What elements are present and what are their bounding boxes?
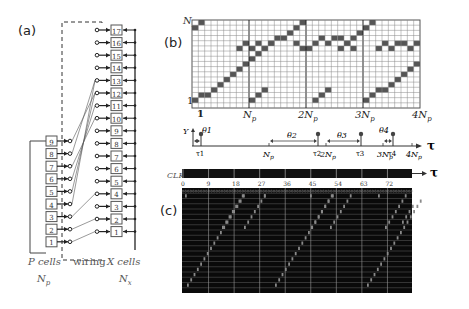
x-input-terminal <box>95 41 99 45</box>
grid-x-label-2np: 2Np <box>298 109 318 123</box>
clk-tick-label: 45 <box>309 180 317 187</box>
arrowhead-icon <box>106 204 110 208</box>
active-cell <box>407 46 413 51</box>
active-cell <box>312 41 318 46</box>
tick-subscript: p <box>332 153 336 161</box>
bus-junction-dot <box>134 180 137 183</box>
p-cell-number: 8 <box>49 151 53 159</box>
bus-junction-dot <box>134 218 137 221</box>
arrowhead-icon <box>197 139 200 143</box>
grid-x-label-1: 1 <box>197 108 204 119</box>
active-cell <box>236 46 242 51</box>
active-cell <box>287 30 293 35</box>
active-cell <box>395 41 401 46</box>
tau-axis-label: τ <box>427 139 435 153</box>
spike-mark <box>402 221 404 224</box>
spike-marker <box>359 132 363 136</box>
tick-subscript: p <box>270 153 274 161</box>
spike-mark <box>367 284 369 287</box>
np-index: p <box>252 115 256 123</box>
clk-tick-label: 54 <box>334 180 342 187</box>
arrowhead-icon <box>123 154 127 158</box>
spike-mark <box>412 205 414 208</box>
axis-arrow-icon <box>416 144 422 149</box>
active-cell <box>350 46 356 51</box>
spike-mark <box>377 268 379 271</box>
spike-mark <box>390 247 392 250</box>
spike-mark <box>318 215 320 218</box>
clk-tick-label: 36 <box>283 180 291 187</box>
bus-junction-dot <box>134 79 137 82</box>
tau-event-label: τ4 <box>388 150 397 158</box>
theta-label: θ4 <box>379 126 389 135</box>
active-cell <box>255 41 261 46</box>
p-cell-number: 1 <box>49 239 53 247</box>
bus-junction-dot <box>134 130 137 133</box>
spike-mark <box>217 236 219 239</box>
arrowhead-icon <box>106 28 110 32</box>
x-cell-number: 1 <box>114 229 118 237</box>
theta-label: θ3 <box>337 131 347 140</box>
spike-mark <box>190 278 192 281</box>
p-count-symbol: N <box>37 273 46 284</box>
active-cell <box>407 67 413 72</box>
arrowhead-icon <box>194 139 197 143</box>
arrowhead-icon <box>106 141 110 145</box>
spike-mark <box>194 273 196 276</box>
active-cell <box>192 98 198 103</box>
spike-mark <box>305 236 307 239</box>
spike-mark <box>207 252 209 255</box>
arrowhead-icon <box>123 192 127 196</box>
arrowhead-icon <box>389 139 392 143</box>
active-cell <box>255 92 261 97</box>
x-input-terminal <box>95 129 99 133</box>
x-cell-number: 5 <box>114 179 118 187</box>
x-input-terminal <box>95 116 99 120</box>
activation-grid <box>190 18 422 110</box>
spike-mark <box>288 263 290 266</box>
arrowhead-icon <box>106 53 110 57</box>
arrowhead-icon <box>64 240 68 244</box>
grid-x-label-np: Np <box>243 109 256 123</box>
x-input-terminal <box>95 79 99 83</box>
panel-c-label: (c) <box>160 203 177 218</box>
spike-mark <box>301 242 303 245</box>
active-cell <box>414 61 420 66</box>
arrowhead-icon <box>64 139 68 143</box>
arrowhead-icon <box>64 214 68 218</box>
active-cell <box>312 98 318 103</box>
active-cell <box>369 20 375 25</box>
arrowhead-icon <box>123 129 127 133</box>
spike-mark <box>410 215 412 218</box>
arrowhead-icon <box>64 177 68 181</box>
spike-mark <box>310 194 312 197</box>
spike-mark <box>328 200 330 203</box>
active-cell <box>338 36 344 41</box>
arrowhead-icon <box>123 116 127 120</box>
arrowhead-icon <box>123 217 127 221</box>
x-cell-number: 14 <box>112 65 121 73</box>
arrowhead-icon <box>123 204 127 208</box>
p-cells-caption: P cells <box>28 256 61 267</box>
x-cell-number: 8 <box>114 141 118 149</box>
axis-arrow-icon <box>422 171 427 176</box>
spike-marker <box>316 132 320 136</box>
spike-mark <box>257 205 259 208</box>
active-cell <box>376 46 382 51</box>
active-cell <box>319 36 325 41</box>
x-input-terminal <box>95 230 99 234</box>
x-cells-caption: X cells <box>107 256 140 267</box>
arrowhead-icon <box>106 91 110 95</box>
clk-tick-label: 18 <box>232 180 240 187</box>
spike-mark <box>330 226 332 229</box>
spike-mark <box>417 205 419 208</box>
p-cell-number: 3 <box>49 214 53 222</box>
active-cell <box>357 30 363 35</box>
arrowhead-icon <box>123 41 127 45</box>
spike-mark <box>380 263 382 266</box>
spike-mark <box>385 226 387 229</box>
arrowhead-icon <box>106 192 110 196</box>
arrowhead-icon <box>106 103 110 107</box>
tick-subscript: p <box>418 153 422 161</box>
clk-tick-label: 9 <box>207 180 211 187</box>
